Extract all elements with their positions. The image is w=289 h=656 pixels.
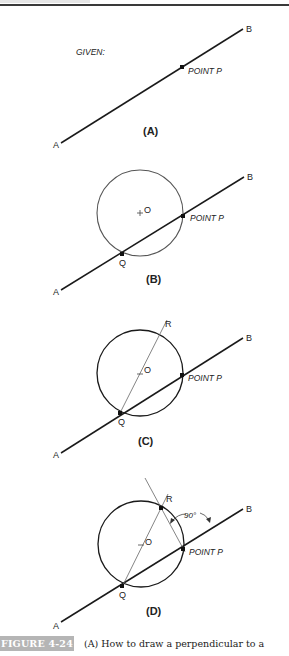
panel-b: B A O POINT P Q (B) <box>53 170 253 297</box>
given-label: GIVEN: <box>76 47 105 57</box>
panel-label-a: (A) <box>143 125 159 137</box>
figure-number-badge: FIGURE 4-24 <box>0 636 74 651</box>
point-q-marker <box>118 411 122 415</box>
end-b-label: B <box>246 504 252 514</box>
point-p-label: POINT P <box>188 373 222 383</box>
figure-caption: FIGURE 4-24 (A) How to draw a perpendicu… <box>0 636 289 656</box>
end-b-label: B <box>246 333 252 343</box>
end-a-label: A <box>53 450 59 460</box>
point-p-marker <box>181 214 185 218</box>
point-p-label: POINT P <box>189 547 223 557</box>
angle-label: 90° <box>184 511 197 520</box>
point-p-label: POINT P <box>188 66 222 76</box>
point-p-marker <box>180 373 184 377</box>
end-a-label: A <box>53 287 59 297</box>
point-q-marker <box>120 584 124 588</box>
center-o-label: O <box>145 537 152 547</box>
point-q-label: Q <box>119 258 126 268</box>
figure-4-24-diagram: B A GIVEN: POINT P (A) B A O POINT P Q (… <box>0 0 289 636</box>
center-o-label: O <box>144 365 151 375</box>
panel-label-c: (C) <box>138 435 154 447</box>
point-p-marker <box>180 65 184 69</box>
point-p-label: POINT P <box>190 213 224 223</box>
panel-label-b: (B) <box>146 273 162 285</box>
circle-o <box>98 501 184 587</box>
panel-d: B A O R 90° POINT P Q (D) <box>53 478 252 631</box>
end-a-label: A <box>53 140 59 150</box>
end-a-label: A <box>53 621 59 631</box>
caption-text: (A) How to draw a perpendicular to a <box>84 636 264 651</box>
point-q-label: Q <box>119 590 126 600</box>
point-q-label: Q <box>118 417 125 427</box>
panel-c: B A O R POINT P Q (C) <box>53 319 252 460</box>
end-b-label: B <box>247 172 253 182</box>
panel-label-d: (D) <box>146 605 162 617</box>
center-o-label: O <box>144 205 151 215</box>
end-b-label: B <box>246 24 252 34</box>
point-p-marker <box>181 547 185 551</box>
panel-a: B A GIVEN: POINT P (A) <box>53 24 252 150</box>
point-r-label: R <box>165 319 172 329</box>
arrowhead-icon <box>206 517 211 523</box>
point-r-marker <box>159 506 163 510</box>
point-q-marker <box>120 252 124 256</box>
point-r-label: R <box>166 494 173 504</box>
